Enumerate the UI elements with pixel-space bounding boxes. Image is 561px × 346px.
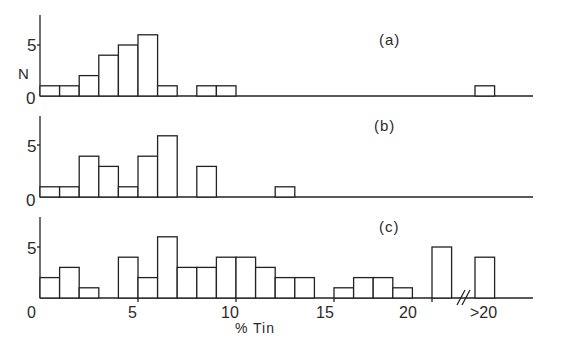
histogram-figure: 5 0 N (a) 5 0 (b) 5 (c) 0 5 1: [0, 0, 561, 346]
panel-label-c: (c): [379, 218, 400, 235]
histogram-bar: [79, 156, 99, 197]
panel-label-b: (b): [374, 117, 395, 134]
panel-c: 5 (c) 0 5 10 15 20 >20 % Tin: [27, 217, 533, 336]
x-tick-label-20: 20: [399, 304, 417, 321]
panel-label-a: (a): [379, 31, 400, 48]
histogram-bar: [99, 166, 119, 197]
histogram-bar: [79, 76, 99, 96]
y-tick-label-5-a: 5: [27, 36, 36, 55]
histogram-bar: [40, 187, 60, 197]
histogram-bar: [40, 86, 60, 96]
y-tick-label-0-b: 0: [26, 191, 35, 210]
histogram-bar: [118, 187, 138, 197]
histogram-bar: [158, 237, 178, 298]
histogram-bar: [158, 86, 178, 96]
histogram-bar: [118, 257, 138, 298]
y-tick-label-5-b: 5: [27, 137, 36, 156]
histogram-bar: [177, 267, 197, 298]
histogram-bar: [393, 288, 413, 298]
histogram-bar: [275, 278, 295, 298]
bars-b: [40, 136, 295, 197]
histogram-bar: [295, 278, 315, 298]
histogram-bar: [60, 187, 80, 197]
histogram-bar: [197, 86, 217, 96]
histogram-bar: [475, 86, 495, 96]
histogram-bar: [373, 278, 393, 298]
y-tick-label-5-c: 5: [27, 239, 36, 258]
histogram-bar: [432, 247, 452, 298]
histogram-bar: [197, 267, 217, 298]
x-tick-label-0: 0: [27, 304, 36, 321]
histogram-bar: [354, 278, 374, 298]
histogram-bar: [79, 288, 99, 298]
histogram-bar: [60, 267, 80, 298]
histogram-bar: [475, 257, 495, 298]
histogram-bar: [158, 136, 178, 197]
histogram-bar: [334, 288, 354, 298]
histogram-bar: [256, 267, 276, 298]
y-tick-label-0-a: 0: [26, 89, 35, 108]
histogram-bar: [99, 55, 119, 96]
histogram-bar: [216, 86, 236, 96]
histogram-bar: [197, 166, 217, 197]
panel-b: 5 0 (b): [26, 116, 533, 210]
y-axis-label: N: [18, 65, 29, 82]
histogram-bar: [138, 278, 158, 298]
histogram-bar: [60, 86, 80, 96]
panel-a: 5 0 N (a): [18, 15, 533, 108]
histogram-bar: [138, 35, 158, 96]
histogram-bar: [216, 257, 236, 298]
histogram-bar: [275, 187, 295, 197]
x-tick-label-gt20: >20: [470, 304, 497, 321]
bars-a: [40, 35, 495, 96]
x-tick-label-5: 5: [128, 304, 137, 321]
histogram-bar: [138, 156, 158, 197]
x-axis-label: % Tin: [235, 320, 275, 336]
histogram-bar: [40, 278, 60, 298]
x-tick-label-10: 10: [221, 304, 239, 321]
histogram-bar: [118, 45, 138, 96]
bars-c: [40, 237, 495, 298]
histogram-bar: [236, 257, 256, 298]
x-tick-label-15: 15: [316, 304, 334, 321]
